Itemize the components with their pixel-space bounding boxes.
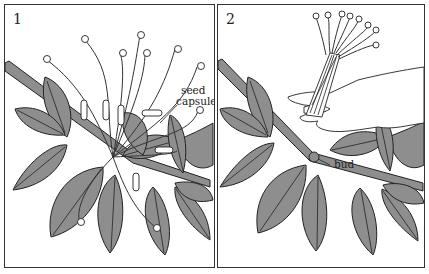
seed-capsule-label-line2: capsule [176, 96, 215, 107]
plant-with-bud-and-hand-drawing [218, 5, 425, 268]
bud-label: bud [334, 159, 354, 170]
plant-with-seed-capsules-drawing [5, 5, 215, 268]
panel-number: 1 [13, 11, 22, 27]
botanical-illustration: 1 seed capsule [0, 0, 429, 274]
panel-1: 1 seed capsule [4, 4, 215, 268]
panel-number: 2 [226, 11, 235, 27]
seed-capsule-label: seed capsule [181, 85, 215, 107]
panel-2: 2 bud [217, 4, 425, 268]
